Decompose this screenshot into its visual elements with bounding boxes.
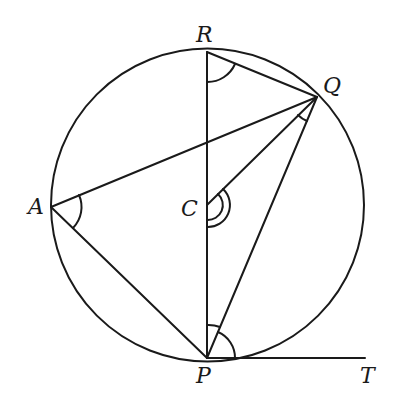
label-Q: Q: [323, 73, 341, 98]
label-A: A: [26, 194, 44, 219]
chord-AP: [51, 207, 207, 358]
label-R: R: [195, 22, 213, 47]
circle-theorem-diagram: R Q A C P T: [0, 0, 397, 412]
label-P: P: [195, 363, 212, 388]
label-C: C: [181, 196, 198, 221]
angle-mark-A: [73, 195, 82, 228]
angle-mark-Q: [298, 115, 307, 121]
angle-mark-P-QT: [218, 332, 235, 358]
label-T: T: [360, 363, 377, 388]
angle-mark-R: [207, 64, 235, 82]
angle-mark-P-RQ: [207, 325, 220, 327]
